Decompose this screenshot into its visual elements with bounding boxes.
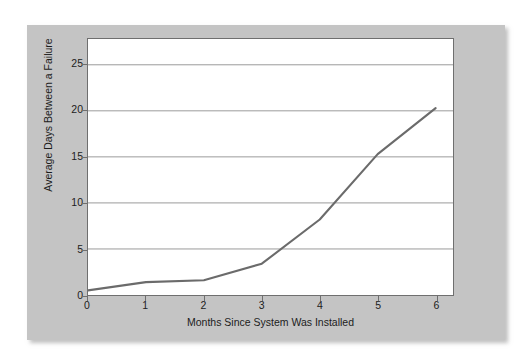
x-axis-tick-mark: [145, 296, 146, 301]
y-axis-tick-label: 25: [55, 58, 83, 69]
y-axis-tick-label: 5: [55, 244, 83, 255]
plot-svg: [88, 39, 453, 295]
series-polyline: [88, 108, 436, 290]
x-axis-tick-mark: [378, 296, 379, 301]
y-axis-tick-mark: [82, 250, 87, 251]
x-axis-tick-mark: [437, 296, 438, 301]
gridlines: [88, 65, 453, 249]
x-axis-tick-mark: [262, 296, 263, 301]
x-axis-title: Months Since System Was Installed: [87, 316, 454, 328]
x-axis-tick-mark: [320, 296, 321, 301]
y-axis-title-wrapper: Average Days Between a Failure: [42, 5, 56, 225]
x-axis-tick-labels: 0123456: [87, 299, 454, 315]
y-axis-tick-mark: [82, 157, 87, 158]
y-axis-tick-mark: [82, 64, 87, 65]
y-axis-tick-mark: [82, 203, 87, 204]
y-axis-tick-mark: [82, 110, 87, 111]
y-axis-tick-label: 15: [55, 151, 83, 162]
data-series-line: [88, 108, 436, 290]
chart-panel: 0510152025 0123456 Months Since System W…: [27, 25, 505, 340]
plot-area: [87, 38, 454, 296]
chart-figure: 0510152025 0123456 Months Since System W…: [0, 0, 525, 360]
x-axis-tick-mark: [204, 296, 205, 301]
y-axis-tick-label: 20: [55, 104, 83, 115]
y-axis-title: Average Days Between a Failure: [42, 5, 54, 225]
x-axis-tick-mark: [87, 296, 88, 301]
y-axis-tick-label: 10: [55, 197, 83, 208]
